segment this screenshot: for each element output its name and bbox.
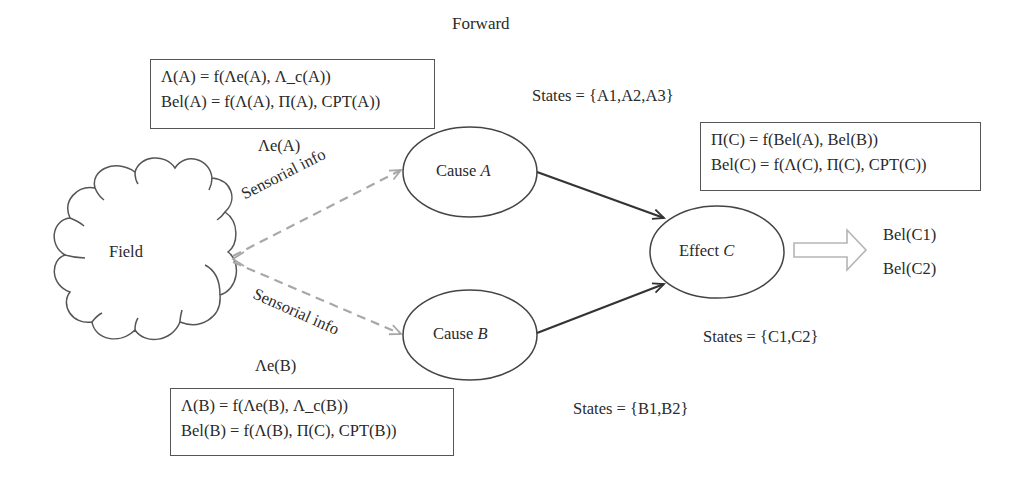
cause-b-node: Cause B [433,324,488,344]
lambda-e-b-label: Λe(B) [255,356,296,376]
field-cloud [54,158,236,340]
equation-c-line-2: Bel(C) = f(Λ(C), Π(C), CPT(C)) [711,152,970,177]
bel-c1-output: Bel(C1) [883,225,936,245]
output-arrow-icon [794,230,866,270]
cause-a-var: A [480,161,490,180]
cause-b-var: B [477,324,487,343]
states-b-label: States = {B1,B2} [573,399,688,419]
bel-c2-output: Bel(C2) [883,259,936,279]
equation-box-b: Λ(B) = f(Λe(B), Λ_c(B)) Bel(B) = f(Λ(B),… [170,388,454,456]
equation-box-a: Λ(A) = f(Λe(A), Λ_c(A)) Bel(A) = f(Λ(A),… [150,59,435,129]
edge-cause-b-to-effect-c [537,284,664,333]
field-node-label: Field [109,242,143,262]
equation-b-line-1: Λ(B) = f(Λe(B), Λ_c(B)) [181,393,443,418]
lambda-e-a-label: Λe(A) [258,136,300,156]
cause-a-prefix: Cause [436,161,480,180]
states-c-label: States = {C1,C2} [703,327,818,347]
effect-c-prefix: Effect [679,241,723,260]
equation-box-c: Π(C) = f(Bel(A), Bel(B)) Bel(C) = f(Λ(C)… [700,122,981,191]
equation-c-line-1: Π(C) = f(Bel(A), Bel(B)) [711,127,970,152]
effect-c-var: C [723,241,734,260]
cause-a-node: Cause A [436,161,491,181]
cause-b-prefix: Cause [433,324,477,343]
effect-c-node: Effect C [679,241,734,261]
states-a-label: States = {A1,A2,A3} [532,86,674,106]
diagram-title: Forward [452,14,510,34]
edge-cause-a-to-effect-c [537,172,664,218]
equation-a-line-2: Bel(A) = f(Λ(A), Π(A), CPT(A)) [161,89,424,114]
equation-a-line-1: Λ(A) = f(Λe(A), Λ_c(A)) [161,64,424,89]
equation-b-line-2: Bel(B) = f(Λ(B), Π(C), CPT(B)) [181,418,443,443]
